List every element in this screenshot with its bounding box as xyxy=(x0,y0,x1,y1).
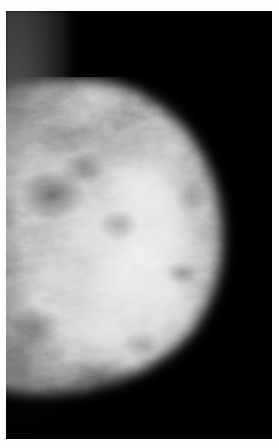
radiograph-plate xyxy=(6,11,272,439)
mammogram-viewport: Grayscale mammography radiograph showing… xyxy=(0,0,279,448)
breast-tissue-svg xyxy=(6,77,244,417)
fibroglandular-tissue-region xyxy=(6,77,244,417)
